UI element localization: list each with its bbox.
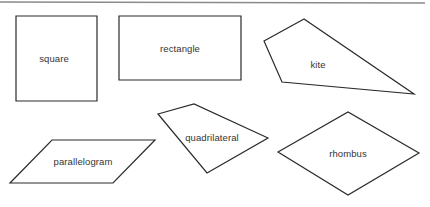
rhombus-label: rhombus xyxy=(329,148,367,159)
shapes-diagram xyxy=(0,0,430,207)
parallelogram-label: parallelogram xyxy=(54,156,113,167)
kite-shape xyxy=(264,19,414,94)
square-label: square xyxy=(39,53,69,64)
rectangle-label: rectangle xyxy=(160,43,200,54)
top-rule xyxy=(0,2,425,3)
quadrilateral-label: quadrilateral xyxy=(185,132,239,143)
kite-label: kite xyxy=(310,59,325,70)
